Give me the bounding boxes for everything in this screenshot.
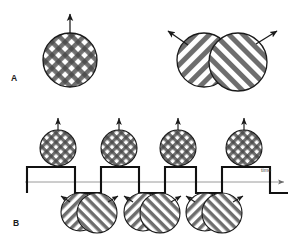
component-grating-right	[202, 193, 242, 233]
component-grating-right	[209, 33, 267, 91]
plaid-aperture	[43, 33, 97, 87]
plaid-aperture	[160, 130, 196, 166]
plaid-aperture	[226, 130, 262, 166]
grating-pair-b1	[61, 193, 118, 233]
grating-pair-b3	[186, 193, 243, 233]
plaid-aperture	[101, 130, 137, 166]
grating-pair-b2	[124, 193, 181, 233]
plaid-aperture	[40, 130, 76, 166]
time-axis-label: time	[261, 167, 271, 173]
component-grating-right	[140, 193, 180, 233]
component-grating-right	[77, 193, 117, 233]
panel-label-b: B	[13, 218, 19, 228]
stimulus-figure	[0, 0, 293, 245]
panel-label-a: A	[11, 73, 17, 83]
